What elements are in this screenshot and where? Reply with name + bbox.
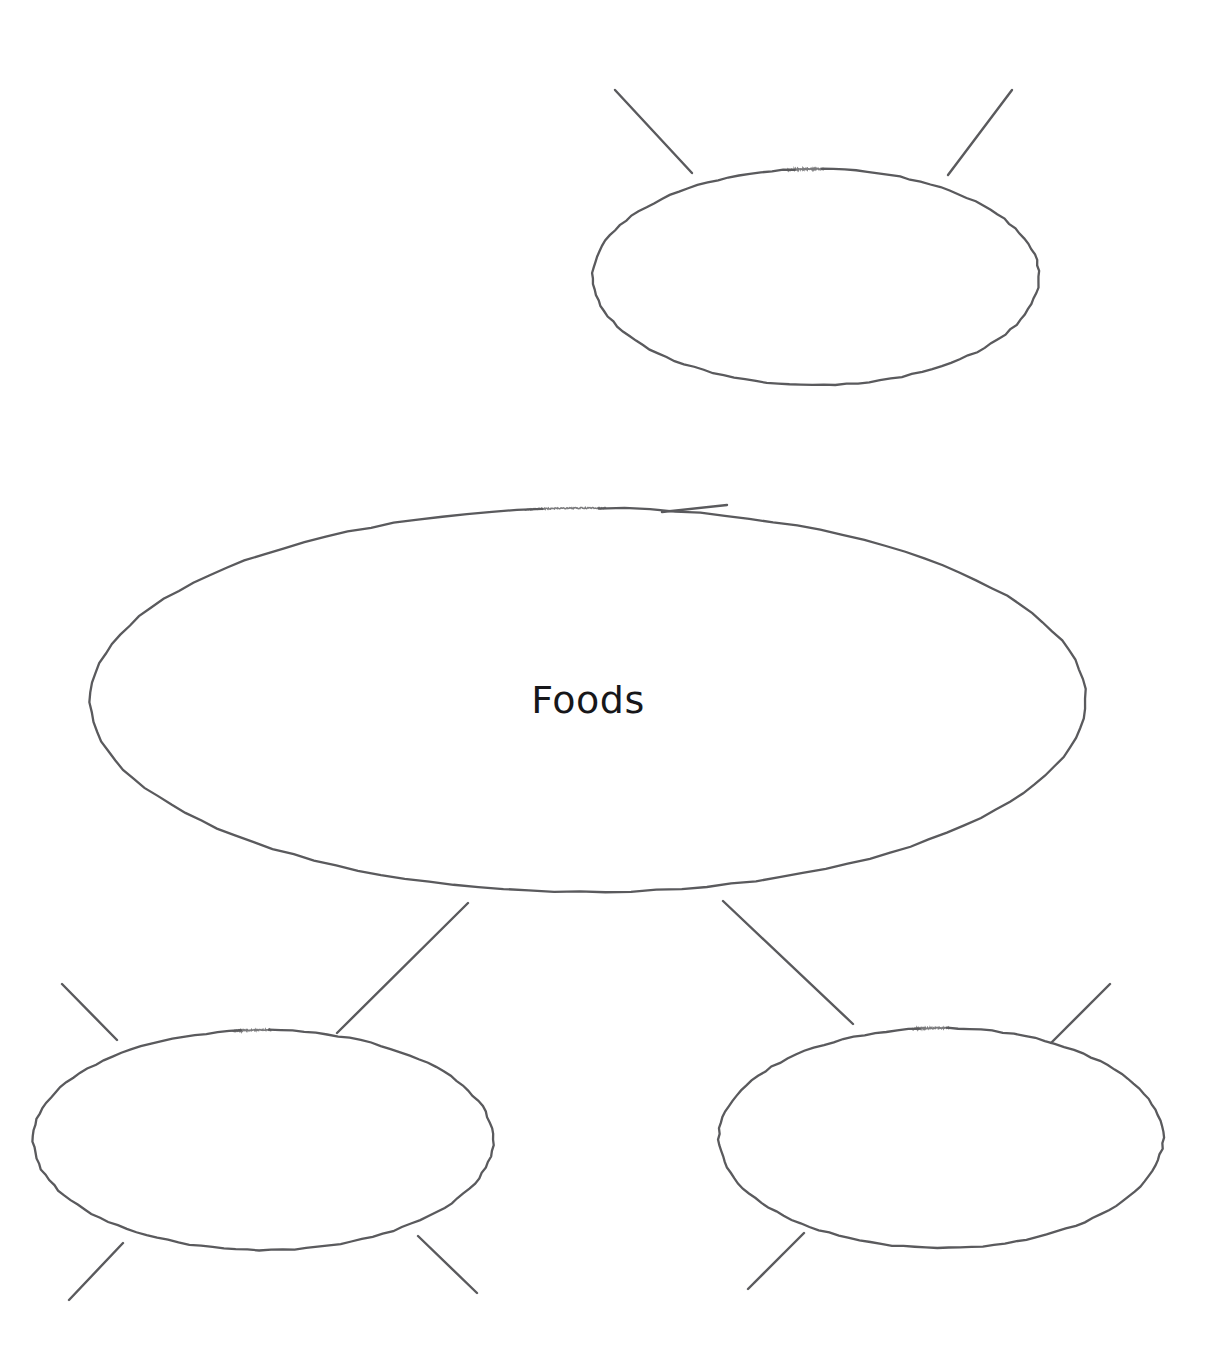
connector-bottom-right-upper-right bbox=[1051, 984, 1110, 1043]
connector-lines-group bbox=[62, 90, 1110, 1300]
center-bubble-outline[interactable] bbox=[89, 508, 1085, 892]
top-bubble-outline[interactable] bbox=[787, 168, 824, 170]
bubble-map-drawing bbox=[0, 0, 1231, 1371]
worksheet-canvas: Foods bbox=[0, 0, 1231, 1371]
connector-top-upper-right bbox=[948, 90, 1012, 175]
connector-bottom-right-lower-left bbox=[748, 1233, 804, 1289]
connector-bottom-left-lower-left bbox=[69, 1243, 123, 1300]
bottom-left-bubble-outline[interactable] bbox=[32, 1030, 493, 1251]
center-bubble-outline[interactable] bbox=[525, 507, 605, 510]
bottom-left-bubble-outline[interactable] bbox=[233, 1029, 271, 1031]
bottom-right-bubble-outline[interactable] bbox=[912, 1027, 949, 1029]
bubble-outlines-group bbox=[32, 168, 1164, 1250]
connector-bottom-left-upper-left bbox=[62, 984, 117, 1040]
connector-center-to-bottom-right bbox=[723, 901, 853, 1024]
top-bubble-outline[interactable] bbox=[592, 169, 1039, 385]
connector-bottom-left-lower-right bbox=[418, 1236, 477, 1293]
connector-top-upper-left bbox=[615, 90, 692, 173]
connector-center-to-bottom-left bbox=[337, 903, 468, 1033]
bottom-right-bubble-outline[interactable] bbox=[718, 1028, 1164, 1248]
